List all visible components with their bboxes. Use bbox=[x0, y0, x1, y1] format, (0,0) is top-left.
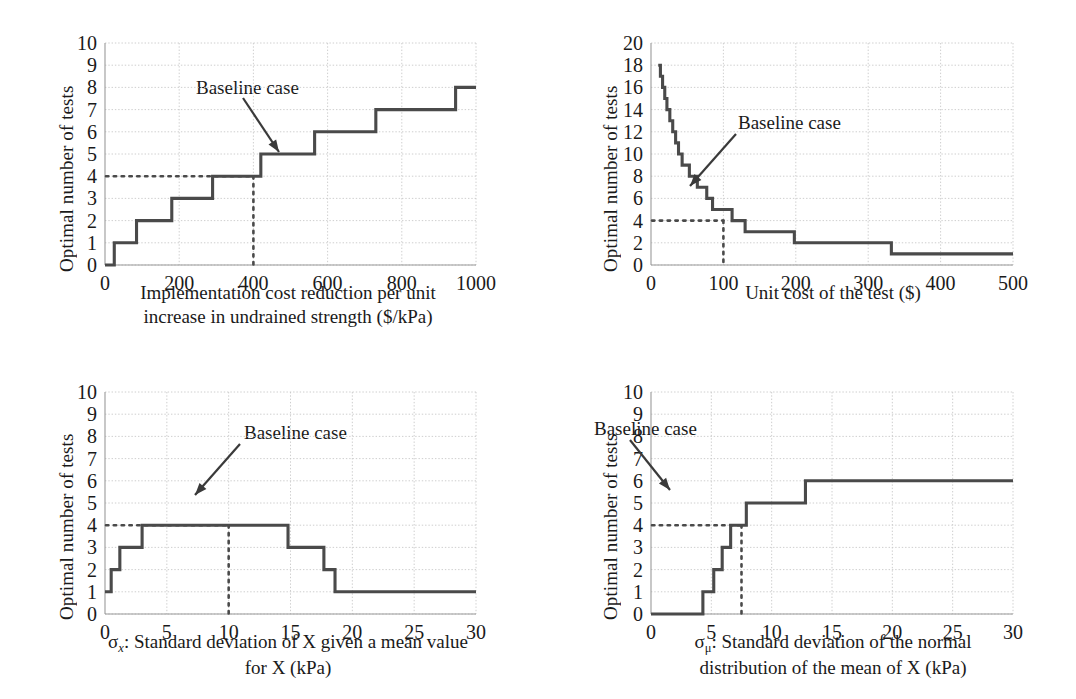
plot-area bbox=[538, 350, 1076, 699]
step-curve bbox=[658, 65, 1013, 254]
plot-area bbox=[0, 0, 538, 350]
figure-panel-grid: Optimal number of tests01234567891002004… bbox=[0, 0, 1076, 699]
gridlines bbox=[651, 392, 1013, 614]
plot-area bbox=[538, 0, 1076, 350]
plot-area bbox=[0, 350, 538, 699]
chart-panel-d: Optimal number of tests01234567891005101… bbox=[538, 350, 1076, 699]
chart-panel-b: Optimal number of tests02468101214161820… bbox=[538, 0, 1076, 350]
chart-panel-c: Optimal number of tests01234567891005101… bbox=[0, 350, 538, 699]
gridlines bbox=[105, 392, 476, 614]
annotation-arrow-head bbox=[269, 139, 279, 152]
gridlines bbox=[651, 43, 1013, 265]
chart-panel-a: Optimal number of tests01234567891002004… bbox=[0, 0, 538, 350]
